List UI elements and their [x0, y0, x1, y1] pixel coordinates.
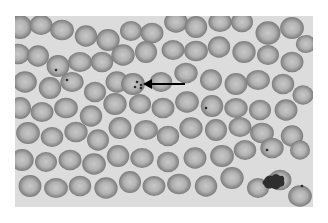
red-blood-cell	[224, 98, 247, 118]
red-blood-cell	[200, 69, 222, 90]
red-blood-cell	[272, 74, 294, 95]
micrograph-frame	[15, 16, 313, 207]
red-blood-cell	[157, 126, 179, 147]
red-blood-cell	[281, 52, 304, 73]
red-blood-cell	[152, 98, 175, 119]
red-blood-cell	[195, 175, 217, 196]
red-blood-cell	[174, 63, 197, 84]
parasite-dot	[301, 185, 304, 188]
red-blood-cell	[68, 52, 92, 72]
red-blood-cell	[234, 140, 256, 160]
red-blood-cell	[175, 91, 199, 112]
red-blood-cell	[109, 117, 132, 139]
red-blood-cell	[103, 93, 126, 115]
red-blood-cell	[256, 21, 281, 44]
red-blood-cell	[184, 41, 208, 62]
red-blood-cell	[275, 99, 298, 120]
parasite-dot	[140, 84, 143, 87]
parasite-dot	[136, 81, 139, 84]
red-blood-cell	[257, 45, 279, 65]
red-blood-cell	[91, 52, 113, 73]
red-blood-cell	[205, 119, 227, 141]
red-blood-cell	[162, 40, 185, 60]
red-blood-cell	[208, 36, 230, 57]
red-blood-cell	[59, 150, 82, 171]
red-blood-cell	[141, 23, 164, 44]
red-blood-cell	[246, 70, 270, 90]
red-blood-cell	[19, 175, 42, 197]
red-blood-cell	[16, 122, 40, 144]
red-blood-cell	[135, 41, 157, 63]
red-blood-cell	[290, 140, 310, 159]
red-blood-cell	[185, 16, 207, 38]
red-blood-cell	[260, 138, 283, 159]
red-blood-cell	[120, 21, 142, 41]
red-blood-cell	[107, 145, 129, 167]
red-blood-cell	[143, 176, 166, 196]
parasite-dot	[266, 149, 269, 152]
red-blood-cell	[167, 174, 191, 195]
parasite-dot	[134, 86, 137, 89]
red-blood-cell	[157, 152, 179, 173]
red-blood-cell	[60, 72, 83, 92]
parasite-dot	[66, 79, 69, 82]
red-blood-cell	[50, 20, 74, 41]
parasite-dot	[140, 87, 143, 90]
red-blood-cell	[94, 177, 117, 198]
red-blood-cell	[75, 25, 97, 46]
red-blood-cell	[201, 95, 223, 117]
red-blood-cell	[249, 100, 271, 121]
red-blood-cell	[288, 185, 312, 206]
red-blood-cell	[179, 117, 202, 138]
red-blood-cell	[220, 167, 243, 189]
red-blood-cell	[210, 145, 234, 167]
red-blood-cell	[35, 152, 57, 172]
red-blood-cell	[64, 122, 87, 143]
red-blood-cell	[82, 153, 106, 174]
red-blood-cell	[225, 73, 248, 95]
red-blood-cell	[232, 41, 255, 63]
blood-smear-image	[15, 16, 313, 207]
red-blood-cell	[41, 127, 63, 147]
parasite-dot	[205, 107, 208, 110]
red-blood-cell	[111, 44, 134, 65]
red-blood-cell	[119, 171, 141, 193]
red-blood-cell	[134, 120, 158, 140]
red-blood-cell	[87, 129, 109, 150]
red-blood-cell	[54, 98, 78, 119]
red-blood-cell	[27, 45, 49, 66]
red-blood-cell	[229, 117, 252, 137]
red-blood-cell	[84, 82, 106, 103]
red-blood-cell	[44, 178, 68, 198]
red-blood-cell	[184, 147, 207, 168]
red-blood-cell	[31, 102, 54, 122]
red-blood-cell	[80, 105, 102, 126]
red-blood-cell	[280, 17, 304, 39]
parasite-dot	[55, 69, 58, 72]
red-blood-cell	[130, 148, 153, 168]
red-blood-cell	[129, 94, 151, 114]
red-blood-cell	[150, 72, 172, 92]
red-blood-cell	[292, 85, 313, 104]
red-blood-cell	[39, 77, 61, 99]
red-blood-cell	[69, 176, 91, 197]
